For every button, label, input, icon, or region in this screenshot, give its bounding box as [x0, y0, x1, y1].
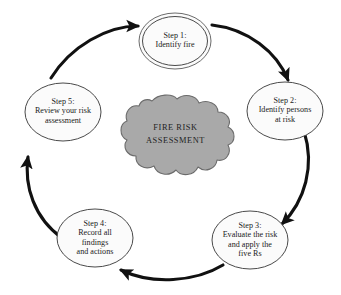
step-2-ellipse [247, 82, 323, 140]
arrow-5-to-1 [51, 26, 138, 78]
step-3-ellipse [212, 211, 288, 269]
step-5-ellipse [25, 83, 101, 141]
fire-risk-assessment-diagram: Step 1: Identify fire Step 2: Identify p… [0, 0, 341, 295]
step-node-4[interactable] [57, 209, 133, 267]
step-node-3[interactable] [212, 211, 288, 269]
arrow-1-to-2 [212, 25, 288, 80]
arrow-3-to-4 [121, 265, 223, 280]
arrow-4-to-5 [27, 157, 62, 238]
step-node-5[interactable] [25, 83, 101, 141]
cloud-shape [121, 95, 234, 175]
step-1-inner-ring [143, 17, 208, 66]
step-node-2[interactable] [247, 82, 323, 140]
arrow-2-to-3 [282, 131, 308, 224]
cycle-diagram-canvas [0, 0, 341, 295]
step-4-ellipse [57, 209, 133, 267]
center-cloud-group [121, 95, 234, 175]
step-node-1[interactable] [139, 13, 211, 69]
